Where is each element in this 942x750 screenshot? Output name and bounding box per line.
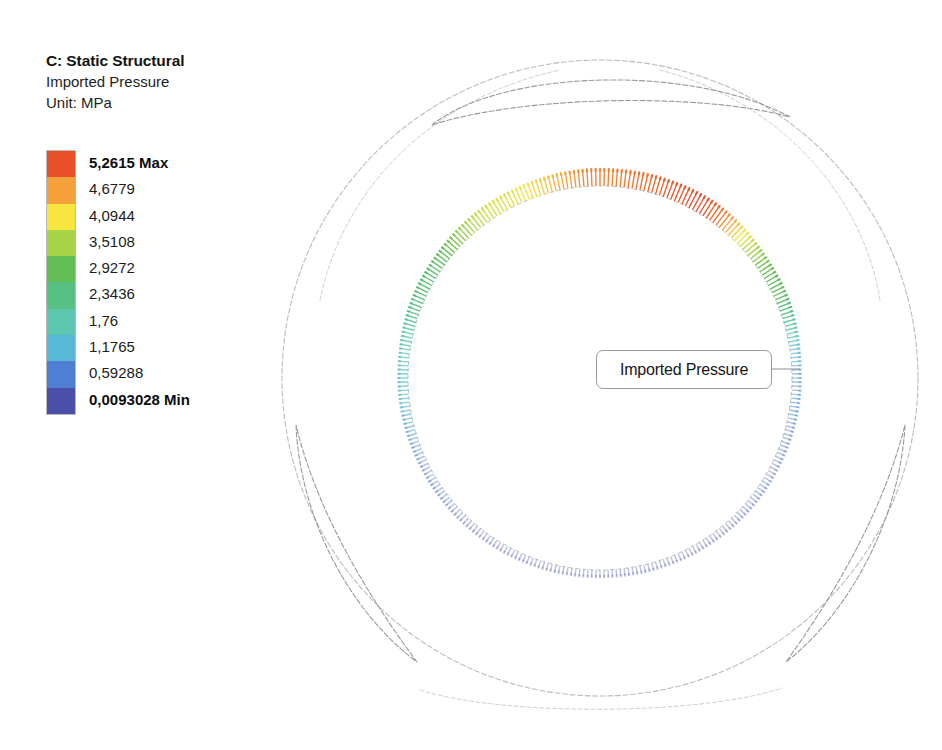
pressure-contour-edge bbox=[695, 551, 697, 554]
pressure-contour-edge bbox=[764, 257, 767, 259]
pressure-contour-edge bbox=[750, 507, 752, 509]
pressure-contour-edge bbox=[794, 327, 797, 328]
pressure-contour-edge bbox=[439, 250, 442, 252]
pressure-contour-edge bbox=[759, 250, 762, 252]
pressure-contour-edge bbox=[781, 287, 784, 288]
legend-result-name: Imported Pressure bbox=[46, 71, 276, 92]
pressure-contour-edge bbox=[475, 213, 477, 216]
colorbar[interactable] bbox=[46, 150, 76, 415]
pressure-contour-edge bbox=[426, 477, 429, 479]
pressure-contour-edge bbox=[726, 530, 728, 532]
pressure-contour-edge bbox=[401, 336, 404, 337]
legend-header: C: Static Structural Imported Pressure U… bbox=[46, 50, 276, 113]
pressure-contour-edge bbox=[526, 561, 527, 564]
pressure-contour-edge bbox=[489, 542, 491, 545]
pressure-contour-edge bbox=[746, 233, 748, 235]
legend-color-scale[interactable]: 5,2615 Max4,67794,09443,51082,92722,3436… bbox=[46, 150, 190, 415]
pressure-contour-edge bbox=[465, 221, 467, 223]
pressure-contour-edge bbox=[489, 203, 491, 206]
spoke-slot-lower-right bbox=[786, 425, 905, 662]
pressure-contour-edge bbox=[408, 439, 411, 440]
pressure-contour-edge bbox=[657, 567, 658, 570]
ansys-graphics-window: .edge { fill: none; stroke: #b0b0b0; str… bbox=[0, 0, 942, 750]
pressure-contour-edge bbox=[402, 331, 405, 332]
pressure-contour-edge bbox=[729, 527, 731, 529]
pressure-contour-edge bbox=[463, 522, 465, 524]
pressure-contour-edge bbox=[443, 501, 446, 503]
pressure-contour-edge bbox=[788, 303, 791, 304]
pressure-contour-edge bbox=[660, 177, 661, 180]
pressure-contour-edge bbox=[719, 535, 721, 538]
pressure-contour-edge bbox=[548, 176, 549, 179]
pressure-contour-edge bbox=[418, 283, 421, 284]
colorbar-band-5 bbox=[47, 282, 75, 308]
pressure-contour-edge bbox=[737, 223, 739, 225]
pressure-contour-edge bbox=[405, 319, 408, 320]
pressure-contour-edge bbox=[760, 494, 763, 496]
pressure-contour-edge bbox=[664, 178, 665, 181]
pressure-contour-edge bbox=[500, 549, 502, 552]
pressure-contour-edge bbox=[639, 172, 640, 175]
pressure-contour-edge bbox=[754, 243, 756, 245]
colorbar-band-4 bbox=[47, 256, 75, 282]
pressure-contour-edge bbox=[757, 497, 760, 499]
pressure-contour-edge bbox=[651, 175, 652, 178]
pressure-contour-edge bbox=[777, 279, 780, 281]
pressure-contour-edge bbox=[493, 544, 495, 547]
pressure-contour-edge bbox=[796, 340, 799, 341]
pressure-contour-edge bbox=[665, 564, 666, 567]
pressure-contour-edge bbox=[479, 535, 481, 538]
pressure-contour-edge bbox=[400, 344, 403, 345]
pressure-contour-edge bbox=[722, 533, 724, 536]
pressure-contour-edge bbox=[420, 466, 423, 467]
pressure-contour-edge bbox=[765, 487, 768, 489]
pressure-contour-edge bbox=[718, 206, 720, 209]
pressure-contour-edge bbox=[785, 294, 788, 295]
pressure-contour-edge bbox=[782, 455, 785, 456]
pressure-contour-edge bbox=[673, 561, 674, 564]
pressure-contour-edge bbox=[496, 547, 498, 550]
annotation-callout-box[interactable]: Imported Pressure bbox=[596, 350, 772, 389]
pressure-contour-edge bbox=[789, 307, 792, 308]
pressure-contour-edge bbox=[411, 447, 414, 448]
pressure-contour-edge bbox=[700, 194, 702, 197]
pressure-contour-edge bbox=[471, 216, 473, 219]
pressure-contour-edge bbox=[447, 240, 449, 242]
pressure-contour-edge bbox=[762, 491, 765, 493]
pressure-contour-edge bbox=[672, 181, 673, 184]
pressure-contour-edge bbox=[653, 568, 654, 571]
pressure-contour-edge bbox=[451, 510, 453, 512]
colorbar-band-9 bbox=[47, 388, 75, 414]
pressure-contour-edge bbox=[433, 487, 436, 489]
pressure-contour-edge bbox=[413, 451, 416, 452]
colorbar-label-1: 4,6779 bbox=[89, 176, 190, 202]
pressure-contour-edge bbox=[767, 260, 770, 262]
pressure-contour-edge bbox=[415, 291, 418, 292]
colorbar-label-8: 0,59288 bbox=[89, 360, 190, 386]
pressure-contour-edge bbox=[755, 501, 758, 503]
pressure-contour-edge bbox=[536, 180, 537, 183]
pressure-contour-edge bbox=[532, 181, 533, 184]
pressure-contour-edge bbox=[416, 287, 419, 288]
pressure-contour-edge bbox=[462, 224, 464, 226]
colorbar-label-2: 4,0944 bbox=[89, 203, 190, 229]
pressure-contour-edge bbox=[775, 470, 778, 471]
pressure-contour-edge bbox=[456, 231, 458, 233]
pressure-contour-edge bbox=[680, 184, 681, 187]
pressure-contour-edge bbox=[424, 473, 427, 475]
colorbar-label-9: 0,0093028 Min bbox=[89, 387, 190, 413]
pressure-contour-edge bbox=[562, 572, 563, 575]
pressure-contour-edge bbox=[634, 171, 635, 174]
pressure-contour-edge bbox=[407, 311, 410, 312]
pressure-contour-edge bbox=[669, 563, 670, 566]
pressure-contour-edge bbox=[459, 227, 461, 229]
pressure-contour-edge bbox=[469, 527, 471, 529]
pressure-contour-edge bbox=[649, 569, 650, 572]
pressure-contour-edge bbox=[519, 558, 520, 561]
pressure-contour-edge bbox=[668, 180, 669, 183]
pressure-contour-edge bbox=[485, 205, 487, 208]
pressure-contour-edge bbox=[515, 188, 516, 191]
pressure-contour-edge bbox=[647, 174, 648, 177]
pressure-contour-edge bbox=[403, 327, 406, 328]
legend-unit: Unit: MPa bbox=[46, 92, 276, 113]
